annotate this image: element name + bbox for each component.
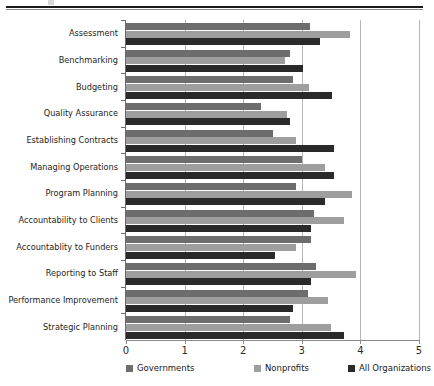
- chart-row: Performance Improvement: [0, 287, 429, 314]
- bar-nonprofits: [126, 111, 287, 118]
- bar-all-organizations: [126, 305, 293, 312]
- x-axis-line: [126, 340, 419, 341]
- bar-all-organizations: [126, 118, 290, 125]
- bar-governments: [126, 236, 311, 243]
- y-tick: [121, 153, 125, 154]
- bar-nonprofits: [126, 137, 296, 144]
- bar-nonprofits: [126, 31, 350, 38]
- bar-governments: [126, 50, 290, 57]
- bar-nonprofits: [126, 57, 285, 64]
- legend-swatch-icon: [348, 365, 355, 372]
- category-label: Establishing Contracts: [0, 135, 118, 145]
- y-tick: [121, 100, 125, 101]
- y-tick: [121, 73, 125, 74]
- bar-governments: [126, 210, 314, 217]
- y-tick: [121, 233, 125, 234]
- x-tick-0: [126, 340, 127, 344]
- bar-nonprofits: [126, 324, 331, 331]
- y-tick: [121, 207, 125, 208]
- legend-swatch-icon: [254, 365, 261, 372]
- bar-nonprofits: [126, 84, 309, 91]
- chart-legend: GovernmentsNonprofitsAll Organizations: [126, 363, 419, 377]
- chart-row: Budgeting: [0, 73, 429, 100]
- y-tick: [121, 20, 125, 21]
- bar-governments: [126, 76, 293, 83]
- category-label: Strategic Planning: [0, 322, 118, 332]
- x-tick-label-4: 4: [345, 345, 375, 356]
- category-label: Budgeting: [0, 82, 118, 92]
- category-label: Benchmarking: [0, 55, 118, 65]
- chart-row: Quality Assurance: [0, 100, 429, 127]
- legend-label: Nonprofits: [265, 363, 309, 373]
- bar-all-organizations: [126, 252, 275, 259]
- category-label: Accountablity to Funders: [0, 242, 118, 252]
- chart-row: Accountablity to Funders: [0, 233, 429, 260]
- y-tick: [121, 260, 125, 261]
- x-tick-2: [243, 340, 244, 344]
- x-tick-4: [360, 340, 361, 344]
- bar-governments: [126, 103, 261, 110]
- category-label: Accountability to Clients: [0, 215, 118, 225]
- bar-all-organizations: [126, 172, 334, 179]
- bar-nonprofits: [126, 191, 352, 198]
- bar-governments: [126, 183, 296, 190]
- bar-all-organizations: [126, 198, 325, 205]
- category-label: Reporting to Staff: [0, 268, 118, 278]
- chart-row: Strategic Planning: [0, 313, 429, 340]
- y-tick: [121, 180, 125, 181]
- x-tick-label-3: 3: [287, 345, 317, 356]
- bar-governments: [126, 316, 290, 323]
- legend-item: Nonprofits: [254, 363, 309, 373]
- legend-item: All Organizations: [348, 363, 431, 373]
- y-tick: [121, 287, 125, 288]
- category-label: Assessment: [0, 28, 118, 38]
- x-tick-label-5: 5: [404, 345, 434, 356]
- legend-label: All Organizations: [359, 363, 431, 373]
- bar-nonprofits: [126, 164, 325, 171]
- legend-label: Governments: [137, 363, 194, 373]
- y-tick: [121, 313, 125, 314]
- bar-all-organizations: [126, 92, 332, 99]
- bar-governments: [126, 156, 302, 163]
- bar-all-organizations: [126, 145, 334, 152]
- bar-governments: [126, 290, 308, 297]
- bar-all-organizations: [126, 65, 303, 72]
- chart-row: Assessment: [0, 20, 429, 47]
- bar-all-organizations: [126, 332, 344, 339]
- bar-nonprofits: [126, 244, 296, 251]
- category-label: Program Planning: [0, 188, 118, 198]
- x-tick-5: [419, 340, 420, 344]
- legend-item: Governments: [126, 363, 194, 373]
- bar-all-organizations: [126, 225, 311, 232]
- legend-swatch-icon: [126, 365, 133, 372]
- chart-row: Benchmarking: [0, 47, 429, 74]
- x-tick-3: [302, 340, 303, 344]
- chart-row: Establishing Contracts: [0, 127, 429, 154]
- y-tick: [121, 47, 125, 48]
- x-tick-label-0: 0: [111, 345, 141, 356]
- bar-governments: [126, 130, 273, 137]
- category-label: Quality Assurance: [0, 108, 118, 118]
- x-tick-label-2: 2: [228, 345, 258, 356]
- bar-nonprofits: [126, 271, 356, 278]
- bar-all-organizations: [126, 278, 311, 285]
- bar-all-organizations: [126, 38, 320, 45]
- x-tick-1: [185, 340, 186, 344]
- y-tick: [121, 127, 125, 128]
- bar-nonprofits: [126, 217, 344, 224]
- category-label: Managing Operations: [0, 162, 118, 172]
- bar-nonprofits: [126, 297, 328, 304]
- category-label: Performance Improvement: [0, 295, 118, 305]
- chart-row: Reporting to Staff: [0, 260, 429, 287]
- x-tick-label-1: 1: [170, 345, 200, 356]
- bar-governments: [126, 23, 310, 30]
- bar-governments: [126, 263, 316, 270]
- chart-row: Accountability to Clients: [0, 207, 429, 234]
- chart-row: Program Planning: [0, 180, 429, 207]
- chart-row: Managing Operations: [0, 153, 429, 180]
